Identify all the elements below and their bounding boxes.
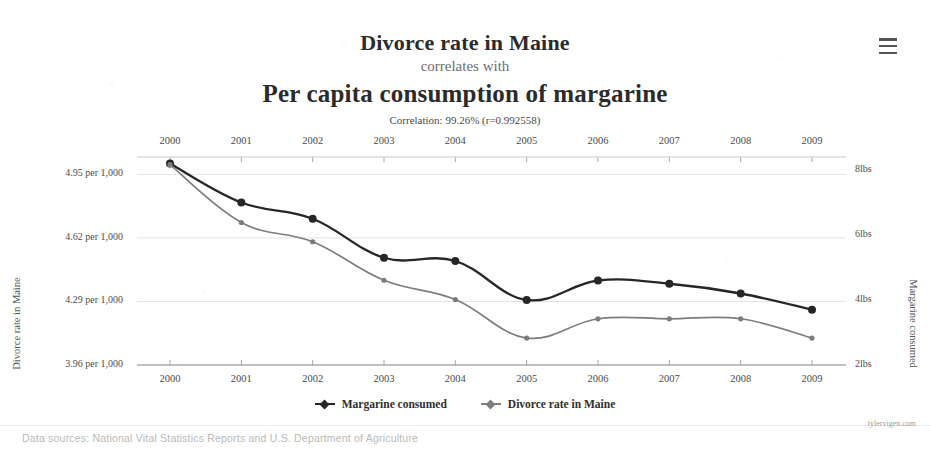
y-axis-left-tick-label: 4.62 per 1,000	[28, 231, 123, 242]
data-point-marker[interactable]	[310, 239, 315, 244]
chart-legend: Margarine consumedDivorce rate in Maine	[0, 398, 930, 410]
data-point-marker[interactable]	[738, 316, 743, 321]
data-point-marker[interactable]	[737, 290, 745, 298]
legend-label: Divorce rate in Maine	[508, 398, 615, 410]
data-point-marker[interactable]	[524, 335, 529, 340]
data-point-marker[interactable]	[237, 199, 245, 207]
data-point-marker[interactable]	[451, 257, 459, 265]
data-point-marker[interactable]	[239, 220, 244, 225]
data-point-marker[interactable]	[595, 316, 600, 321]
x-axis-bottom-tick-label: 2000	[140, 373, 200, 384]
x-axis-bottom-tick-label: 2004	[425, 373, 485, 384]
x-axis-top-tick-label: 2002	[283, 135, 343, 146]
x-axis-bottom-tick-label: 2008	[711, 373, 771, 384]
y-axis-right-tick-label: 8lbs	[855, 163, 905, 174]
data-point-marker[interactable]	[309, 215, 317, 223]
data-point-marker[interactable]	[667, 316, 672, 321]
x-axis-top-tick-label: 2009	[782, 135, 842, 146]
data-series-margarine	[166, 160, 816, 314]
x-axis-top-ticks-group	[170, 157, 812, 162]
legend-marker-icon	[315, 399, 335, 409]
correlation-value: Correlation: 99.26% (r=0.992558)	[0, 114, 930, 126]
x-axis-top-tick-label: 2005	[497, 135, 557, 146]
x-axis-bottom-tick-label: 2007	[639, 373, 699, 384]
chart-svg	[0, 132, 930, 392]
legend-item[interactable]: Divorce rate in Maine	[481, 398, 615, 410]
x-axis-top-tick-label: 2000	[140, 135, 200, 146]
x-axis-top-tick-label: 2003	[354, 135, 414, 146]
data-point-marker[interactable]	[808, 306, 816, 314]
menu-bar-1	[879, 38, 897, 41]
x-axis-bottom-tick-label: 2002	[283, 373, 343, 384]
y-axis-right-tick-label: 6lbs	[855, 228, 905, 239]
x-axis-bottom-tick-label: 2006	[568, 373, 628, 384]
series-line	[170, 165, 812, 339]
y-axis-left-tick-label: 4.29 per 1,000	[28, 294, 123, 305]
page-title-secondary: Per capita consumption of margarine	[0, 80, 930, 108]
data-point-marker[interactable]	[453, 297, 458, 302]
x-axis-bottom-ticks-group	[170, 360, 812, 365]
legend-item[interactable]: Margarine consumed	[315, 398, 447, 410]
x-axis-bottom-tick-label: 2005	[497, 373, 557, 384]
page-title-primary: Divorce rate in Maine	[0, 30, 930, 56]
site-attribution: tylervigen.com	[868, 419, 916, 428]
x-axis-top-tick-label: 2004	[425, 135, 485, 146]
y-axis-right-tick-label: 2lbs	[855, 358, 905, 369]
x-axis-top-tick-label: 2006	[568, 135, 628, 146]
legend-label: Margarine consumed	[342, 398, 447, 410]
data-series-divorce	[167, 162, 814, 341]
title-connector-text: correlates with	[0, 58, 930, 75]
x-axis-bottom-tick-label: 2009	[782, 373, 842, 384]
legend-marker-icon	[481, 399, 501, 409]
y-axis-left-tick-label: 3.96 per 1,000	[28, 358, 123, 369]
data-point-marker[interactable]	[380, 254, 388, 262]
x-axis-top-tick-label: 2007	[639, 135, 699, 146]
x-axis-bottom-tick-label: 2001	[211, 373, 271, 384]
x-axis-top-tick-label: 2008	[711, 135, 771, 146]
y-axis-left-tick-label: 4.95 per 1,000	[28, 167, 123, 178]
data-point-marker[interactable]	[381, 278, 386, 283]
data-point-marker[interactable]	[809, 335, 814, 340]
data-point-marker[interactable]	[594, 277, 602, 285]
menu-bar-2	[879, 45, 897, 48]
data-point-marker[interactable]	[665, 280, 673, 288]
x-axis-bottom-tick-label: 2003	[354, 373, 414, 384]
data-sources-text: Data sources: National Vital Statistics …	[22, 432, 418, 444]
series-line	[170, 164, 812, 310]
x-axis-top-tick-label: 2001	[211, 135, 271, 146]
menu-bar-3	[879, 52, 897, 55]
chart-plot-area: Divorce rate in Maine Margarine consumed…	[0, 132, 930, 392]
chart-header: Divorce rate in Maine correlates with Pe…	[0, 0, 930, 132]
y-axis-right-tick-label: 4lbs	[855, 293, 905, 304]
data-point-marker[interactable]	[523, 296, 531, 304]
footer-divider	[0, 425, 930, 426]
data-series-group	[166, 160, 816, 341]
data-point-marker[interactable]	[167, 162, 172, 167]
hamburger-menu-icon[interactable]	[879, 38, 897, 54]
